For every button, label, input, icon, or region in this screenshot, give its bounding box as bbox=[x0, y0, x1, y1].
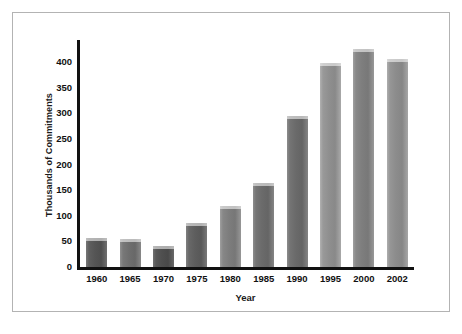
x-axis-line bbox=[77, 267, 414, 270]
bar-slot bbox=[320, 40, 341, 267]
x-axis-tick-labels: 1960196519701975198019851990199520002002 bbox=[80, 273, 414, 289]
x-tick-label: 1975 bbox=[180, 273, 213, 284]
y-tick-label: 200 bbox=[40, 160, 72, 170]
y-tick-label: 250 bbox=[40, 134, 72, 144]
y-tick-label: 150 bbox=[40, 185, 72, 195]
bar-slot bbox=[287, 40, 308, 267]
bar bbox=[387, 59, 408, 267]
bar-chart-plot: Thousands of Commitments Year 0501001502… bbox=[0, 0, 462, 334]
x-tick-label: 1970 bbox=[147, 273, 180, 284]
bar bbox=[320, 63, 341, 267]
y-tick-label: 300 bbox=[40, 108, 72, 118]
bar-slot bbox=[220, 40, 241, 267]
bar bbox=[186, 223, 207, 267]
bar bbox=[353, 49, 374, 267]
bar-highlight bbox=[120, 239, 141, 242]
x-tick-label: 1995 bbox=[314, 273, 347, 284]
bar-highlight bbox=[86, 238, 107, 241]
y-tick-label: 400 bbox=[40, 57, 72, 67]
bar-highlight bbox=[287, 116, 308, 119]
bar-slot bbox=[186, 40, 207, 267]
bar-slot bbox=[153, 40, 174, 267]
y-tick-label: 50 bbox=[40, 236, 72, 246]
bar-slot bbox=[387, 40, 408, 267]
bar-highlight bbox=[387, 59, 408, 62]
y-tick-label: 350 bbox=[40, 83, 72, 93]
bar bbox=[153, 246, 174, 267]
x-tick-label: 1985 bbox=[247, 273, 280, 284]
bar-highlight bbox=[220, 206, 241, 209]
chart-figure: Thousands of Commitments Year 0501001502… bbox=[0, 0, 462, 334]
x-tick-label: 2000 bbox=[347, 273, 380, 284]
bar bbox=[220, 206, 241, 268]
bar-highlight bbox=[320, 63, 341, 66]
x-tick-label: 2002 bbox=[381, 273, 414, 284]
bar-slot bbox=[353, 40, 374, 267]
y-tick-label: 0 bbox=[40, 262, 72, 272]
bar-highlight bbox=[153, 246, 174, 249]
x-tick-label: 1990 bbox=[280, 273, 313, 284]
y-axis-tick-labels: 050100150200250300350400 bbox=[40, 0, 72, 334]
bar-highlight bbox=[353, 49, 374, 52]
bar-highlight bbox=[253, 183, 274, 186]
y-tick-label: 100 bbox=[40, 211, 72, 221]
bar bbox=[120, 239, 141, 267]
bar bbox=[86, 238, 107, 267]
x-tick-label: 1980 bbox=[214, 273, 247, 284]
x-tick-label: 1960 bbox=[80, 273, 113, 284]
bar-slot bbox=[86, 40, 107, 267]
bar-highlight bbox=[186, 223, 207, 226]
bar bbox=[287, 116, 308, 267]
x-axis-title: Year bbox=[77, 292, 414, 303]
bar bbox=[253, 183, 274, 267]
x-tick-label: 1965 bbox=[113, 273, 146, 284]
bar-slot bbox=[120, 40, 141, 267]
bar-slot bbox=[253, 40, 274, 267]
bar-series bbox=[80, 40, 414, 267]
